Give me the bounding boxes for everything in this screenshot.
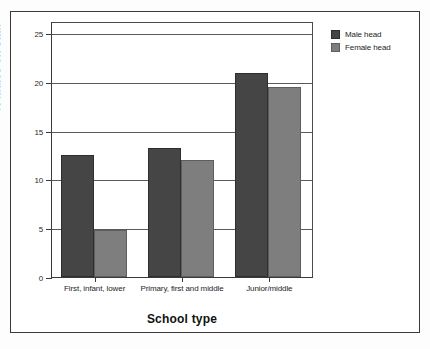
y-tick-label: 0 [39, 274, 43, 283]
y-axis-title: % males on staff [0, 24, 2, 112]
chart-figure: 0510152025 % males on staff School type … [0, 0, 430, 349]
y-tick-label: 10 [35, 176, 44, 185]
legend-label-female-head: Female head [345, 43, 391, 52]
x-tick-mark [182, 277, 183, 282]
y-tick-label: 25 [35, 30, 44, 39]
legend-label-male-head: Male head [345, 30, 381, 39]
plot-area: 0510152025 [51, 22, 313, 278]
bar-male-head [61, 155, 94, 277]
legend-item-male-head: Male head [331, 30, 421, 39]
legend-swatch-female-head-icon [331, 43, 340, 52]
y-tick-label: 15 [35, 127, 44, 136]
gridline [52, 34, 312, 35]
y-tick-label: 5 [39, 225, 43, 234]
y-tick-label: 20 [35, 78, 44, 87]
gridline [52, 83, 312, 84]
y-axis-line [51, 22, 52, 278]
bar-female-head [94, 230, 127, 277]
x-tick-mark [269, 277, 270, 282]
bar-female-head [268, 87, 301, 277]
x-axis-title: School type [51, 312, 313, 326]
bar-male-head [235, 73, 268, 277]
legend-item-female-head: Female head [331, 43, 421, 52]
bar-male-head [148, 148, 181, 277]
y-tick-mark [46, 278, 52, 279]
x-tick-label: Junior/middle [215, 284, 323, 294]
legend-swatch-male-head-icon [331, 30, 340, 39]
chart-legend: Male head Female head [331, 30, 421, 56]
x-tick-mark [95, 277, 96, 282]
bar-female-head [181, 160, 214, 277]
